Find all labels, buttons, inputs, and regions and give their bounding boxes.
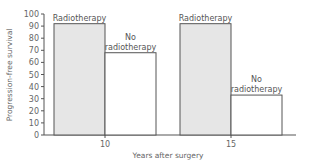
- bar-label: No: [125, 33, 136, 42]
- bar-label: Radiotherapy: [179, 14, 233, 23]
- y-tick-label: 20: [29, 107, 39, 116]
- y-tick-label: 90: [29, 22, 39, 31]
- y-tick-label: 80: [29, 34, 39, 43]
- bar-no-radiotherapy-15: [231, 95, 282, 135]
- y-tick-label: 40: [29, 83, 39, 92]
- bar-chart: 0102030405060708090100 RadiotherapyNorad…: [0, 0, 309, 168]
- y-tick-label: 30: [29, 95, 39, 104]
- x-axis-title: Years after surgery: [132, 151, 204, 160]
- bar-radiotherapy-10: [54, 24, 105, 135]
- y-tick-label: 70: [29, 46, 39, 55]
- bar-label: radiotherapy: [231, 85, 283, 94]
- y-tick-label: 100: [24, 10, 39, 19]
- bar-label: Radiotherapy: [53, 14, 107, 23]
- bar-radiotherapy-15: [180, 24, 231, 135]
- bar-label: radiotherapy: [105, 43, 157, 52]
- y-axis-title: Progression-free survival: [5, 29, 14, 122]
- y-tick-label: 0: [34, 131, 39, 140]
- y-tick-label: 10: [29, 119, 39, 128]
- y-axis-ticks: 0102030405060708090100: [24, 10, 44, 140]
- x-axis-ticks: 1015: [100, 135, 236, 149]
- x-tick-label: 10: [100, 140, 110, 149]
- bar-no-radiotherapy-10: [105, 53, 156, 135]
- y-tick-label: 50: [29, 71, 39, 80]
- y-tick-label: 60: [29, 58, 39, 67]
- bar-label: No: [251, 75, 262, 84]
- bars: RadiotherapyNoradiotherapyRadiotherapyNo…: [53, 14, 283, 135]
- x-tick-label: 15: [226, 140, 236, 149]
